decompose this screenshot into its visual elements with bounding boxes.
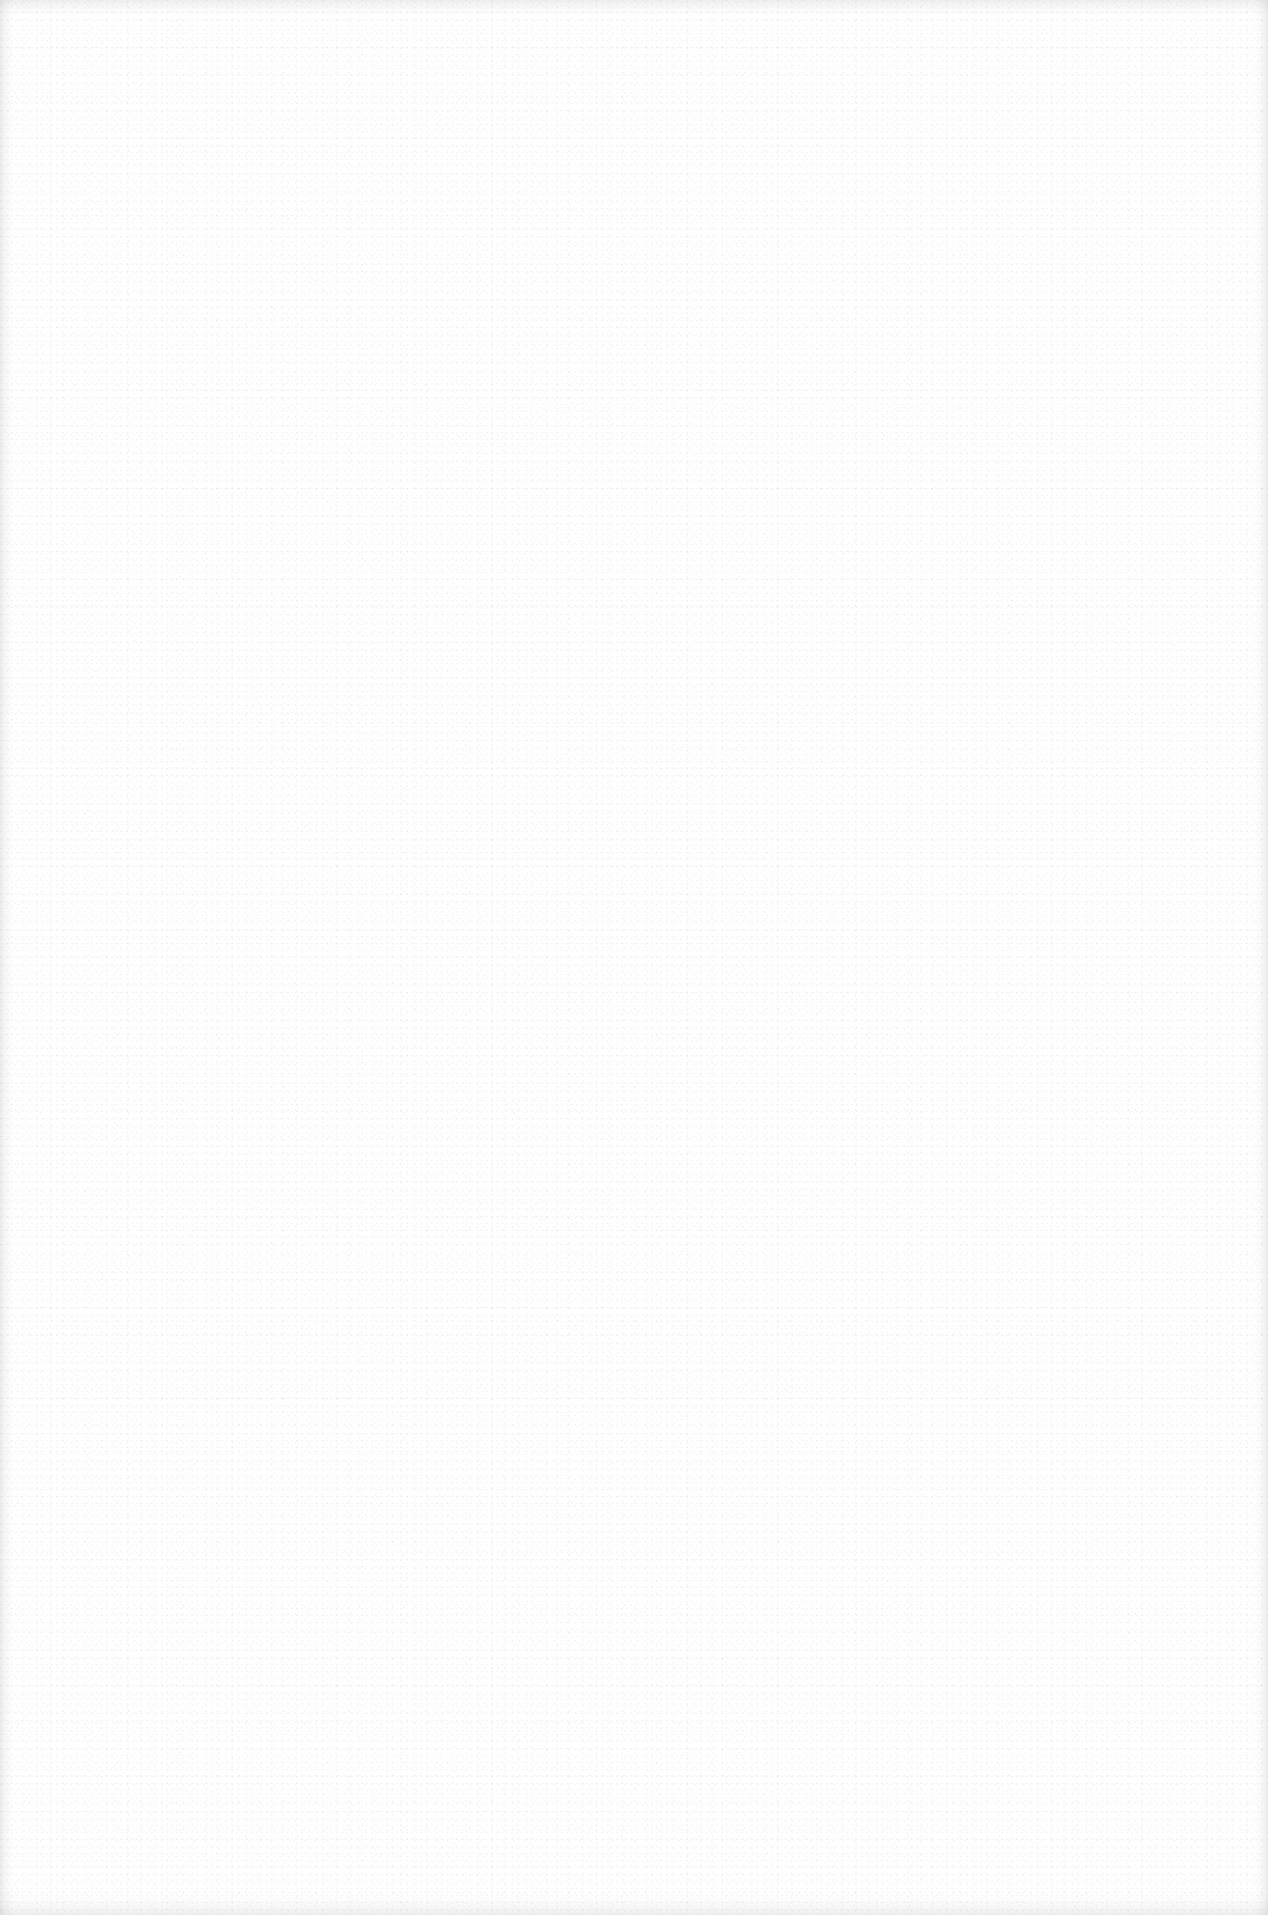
blank-page — [0, 0, 1268, 1915]
paper-texture — [0, 0, 1268, 1915]
